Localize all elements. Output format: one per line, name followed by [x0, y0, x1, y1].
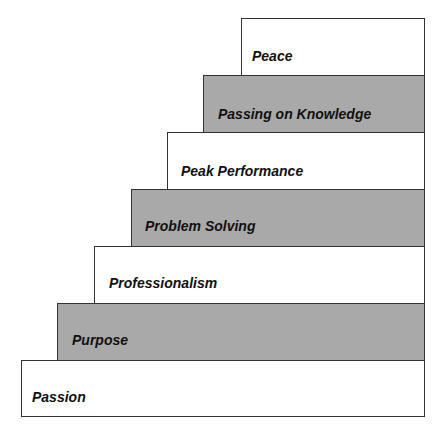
step-label: Passing on Knowledge: [218, 106, 371, 122]
step-problem-solving: Problem Solving: [131, 189, 425, 247]
step-peace: Peace: [241, 18, 425, 76]
step-purpose: Purpose: [57, 303, 425, 361]
step-label: Peak Performance: [181, 163, 303, 179]
step-label: Peace: [252, 48, 292, 64]
step-passing-on-knowledge: Passing on Knowledge: [203, 75, 425, 133]
step-passion: Passion: [21, 360, 425, 417]
step-peak-performance: Peak Performance: [167, 132, 425, 190]
step-label: Problem Solving: [145, 218, 255, 234]
step-label: Professionalism: [109, 275, 217, 291]
step-professionalism: Professionalism: [94, 246, 425, 304]
step-label: Passion: [32, 389, 86, 405]
step-label: Purpose: [72, 332, 128, 348]
